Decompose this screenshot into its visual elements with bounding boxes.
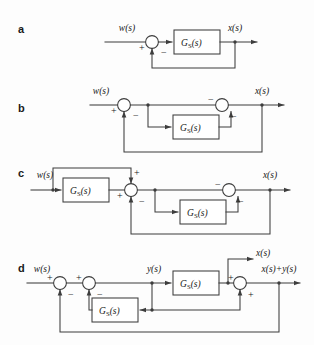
sum-d1-sign-plus: + (47, 272, 53, 283)
sum-b1-sign-minus: − (133, 110, 139, 121)
panel-c-inner-in-wire (155, 190, 178, 212)
sum-d3 (234, 277, 247, 290)
Gs-block-c1-label: GS(s) (70, 186, 91, 197)
sum-d3-sign-plus-left: + (228, 272, 234, 283)
panel-d-output-label: x(s)+y(s) (261, 264, 297, 275)
panel-d-branch-label: x(s) (255, 248, 270, 259)
panel-b-letter: b (18, 102, 25, 114)
panel-c-letter: c (18, 167, 24, 179)
panel-a-output-label: x(s) (227, 23, 242, 34)
panel-b-input-label: w(s) (93, 86, 109, 97)
sum-a1-sign-minus: − (161, 47, 167, 58)
sum-c1-sign-minus-bottom: − (139, 196, 145, 207)
panel-c-inner-out-wire (226, 196, 238, 212)
panel-b-inner-in-wire (148, 105, 171, 127)
Gs-block-b-label: GS(s) (180, 123, 201, 134)
Gs-block-c2-label: GS(s) (187, 208, 208, 219)
sum-b1 (118, 99, 131, 112)
panel-a-letter: a (18, 23, 25, 35)
sum-d2-sign-minus: − (97, 289, 103, 300)
panel-d-tap-dot-y-low (150, 308, 153, 311)
sum-c1-sign-plus-left: + (117, 190, 123, 201)
sum-c2 (223, 184, 236, 197)
sum-a1-sign-plus: + (139, 42, 145, 53)
sum-b2-sign-minus-bottom: − (231, 111, 237, 122)
panel-b-inner-out-wire (219, 111, 231, 127)
panel-d-letter: d (18, 262, 25, 274)
sum-c1-sign-plus-top: + (134, 167, 140, 178)
Gs-block-a-label: GS(s) (181, 38, 202, 49)
sum-d3-sign-plus-bottom: + (248, 289, 254, 300)
panel-d-intermediate-label: y(s) (146, 264, 161, 275)
panel-a-input-label: w(s) (119, 23, 135, 34)
panel-c: c w(s) x(s) GS(s) GS(s) + + − − − (18, 167, 290, 234)
sum-b2 (216, 99, 229, 112)
sum-a1 (146, 36, 159, 49)
Gs-block-d1-label: GS(s) (180, 279, 201, 290)
block-diagram-figure: a w(s) x(s) GS(s) + − b w(s) x(s) (0, 0, 314, 345)
sum-d2 (83, 277, 96, 290)
sum-d1-sign-minus: − (68, 289, 74, 300)
panel-c-output-label: x(s) (262, 170, 277, 181)
Gs-block-d2-label: GS(s) (99, 306, 120, 317)
panel-b: b w(s) x(s) GS(s) + − − − (18, 86, 284, 152)
panel-c-input-label: w(s) (37, 170, 53, 181)
panel-a: a w(s) x(s) GS(s) + − (18, 23, 257, 68)
sum-b2-sign-minus-left: − (208, 94, 214, 105)
panel-b-output-label: x(s) (254, 86, 269, 97)
panel-d-wire-y-to-block2 (140, 283, 152, 310)
sum-d2-sign-plus: + (76, 272, 82, 283)
sum-c1 (125, 184, 138, 197)
panel-d: d w(s) y(s) x(s) x(s)+y(s) GS(s) GS(s) (18, 248, 300, 332)
sum-b1-sign-plus: + (111, 105, 117, 116)
sum-c2-sign-minus-left: − (215, 179, 221, 190)
sum-c2-sign-minus-bottom: − (238, 196, 244, 207)
sum-d1 (54, 277, 67, 290)
